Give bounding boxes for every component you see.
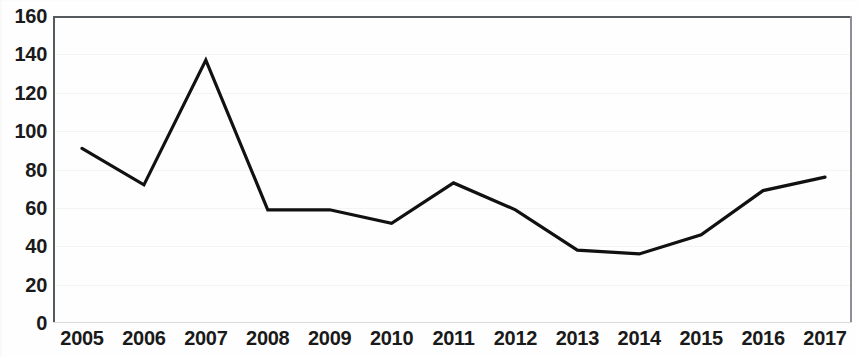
x-tick-label: 2007 xyxy=(184,328,227,349)
x-tick-label: 2013 xyxy=(556,328,599,349)
y-tick-label: 20 xyxy=(0,275,47,295)
x-tick-label: 2011 xyxy=(432,328,474,349)
x-tick-label: 2016 xyxy=(741,328,784,349)
x-tick-label: 2015 xyxy=(680,328,723,349)
y-axis: 020406080100120140160 xyxy=(0,0,47,357)
x-tick-label: 2012 xyxy=(494,328,537,349)
plot-area xyxy=(53,16,852,323)
x-tick-label: 2017 xyxy=(803,328,846,349)
y-tick-label: 140 xyxy=(0,44,47,64)
line-chart: 020406080100120140160 200520062007200820… xyxy=(0,0,857,357)
x-tick-label: 2008 xyxy=(246,328,289,349)
y-tick-label: 160 xyxy=(0,6,47,26)
y-tick-label: 100 xyxy=(0,121,47,141)
x-tick-label: 2014 xyxy=(618,328,661,349)
x-tick-label: 2010 xyxy=(370,328,413,349)
x-tick-label: 2005 xyxy=(60,328,103,349)
data-series-line xyxy=(53,16,852,323)
y-tick-label: 60 xyxy=(0,198,47,218)
y-tick-label: 40 xyxy=(0,236,47,256)
y-tick-label: 80 xyxy=(0,160,47,180)
y-tick-label: 120 xyxy=(0,83,47,103)
x-axis: 2005200620072008200920102011201220132014… xyxy=(0,328,857,357)
x-tick-label: 2009 xyxy=(308,328,351,349)
x-tick-label: 2006 xyxy=(122,328,165,349)
